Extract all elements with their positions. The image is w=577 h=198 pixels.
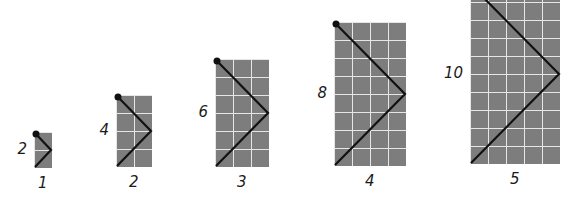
width-label: 4: [365, 174, 375, 189]
figure-2: 42: [116, 95, 152, 167]
height-label: 10: [444, 66, 463, 81]
zigzag-path: [215, 59, 269, 167]
width-label: 5: [510, 172, 520, 187]
height-label: 2: [17, 142, 27, 157]
figure-4: 84: [334, 22, 406, 166]
zigzag-path: [470, 0, 560, 164]
width-label: 3: [237, 175, 247, 190]
zigzag-path: [34, 132, 52, 168]
width-label: 1: [38, 176, 48, 191]
zigzag-path: [116, 95, 152, 167]
start-dot-icon: [115, 94, 122, 101]
figure-5: 105: [470, 0, 560, 164]
figure-1: 21: [34, 132, 52, 168]
zigzag-path: [334, 22, 406, 166]
width-label: 2: [129, 175, 139, 190]
start-dot-icon: [333, 21, 340, 28]
figure-3: 63: [215, 59, 269, 167]
start-dot-icon: [214, 58, 221, 65]
height-label: 4: [99, 123, 109, 138]
height-label: 6: [198, 105, 208, 120]
start-dot-icon: [33, 131, 40, 138]
height-label: 8: [317, 86, 327, 101]
